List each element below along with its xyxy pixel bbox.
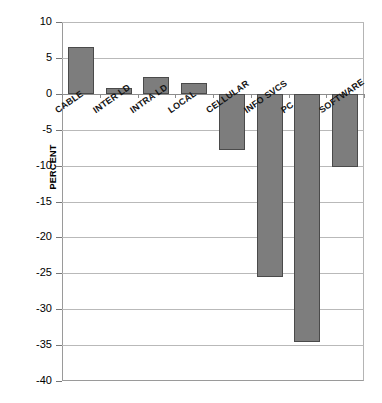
x-axis-tick: [251, 94, 252, 98]
y-axis-tick: [56, 22, 62, 23]
bar: [294, 94, 320, 342]
y-axis-label: 10: [6, 16, 52, 27]
y-axis-label: -15: [6, 196, 52, 207]
y-axis-tick: [56, 381, 62, 382]
y-axis-tick: [56, 202, 62, 203]
bar-chart: PERCENT 1050-5-10-15-20-25-30-35-40 CABL…: [0, 0, 382, 403]
bar: [257, 94, 283, 277]
y-axis-label: 5: [6, 52, 52, 63]
x-axis-tick: [289, 94, 290, 98]
x-axis-tick: [213, 94, 214, 98]
y-axis-label: -10: [6, 160, 52, 171]
x-axis-tick: [326, 94, 327, 98]
x-axis-tick: [62, 94, 63, 98]
y-axis-label: 0: [6, 88, 52, 99]
gridline: [62, 58, 364, 59]
y-axis-tick: [56, 166, 62, 167]
y-axis-tick: [56, 309, 62, 310]
y-axis-label: -30: [6, 303, 52, 314]
y-axis-label: -35: [6, 339, 52, 350]
x-axis-tick: [100, 94, 101, 98]
y-axis-tick: [56, 273, 62, 274]
x-axis-tick: [138, 94, 139, 98]
y-axis-tick: [56, 58, 62, 59]
y-axis-tick: [56, 345, 62, 346]
x-axis-tick: [175, 94, 176, 98]
y-axis-tick: [56, 237, 62, 238]
y-axis-tick: [56, 130, 62, 131]
bar: [68, 47, 94, 94]
x-axis-tick: [364, 94, 365, 98]
y-axis-label: -20: [6, 231, 52, 242]
y-axis-label: -40: [6, 375, 52, 386]
gridline: [62, 22, 364, 23]
gridline: [62, 345, 364, 346]
y-axis-label: -25: [6, 267, 52, 278]
y-axis-label: -5: [6, 124, 52, 135]
